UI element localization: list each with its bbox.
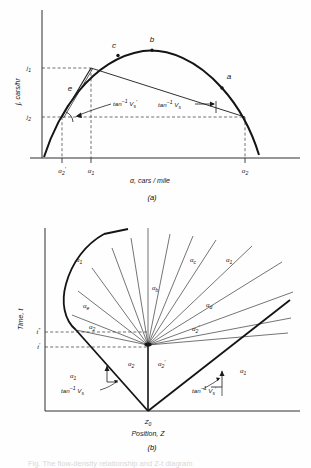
svg-text:α2′: α2′ (58, 166, 66, 175)
bottom-caption-text: Fig. The flow-density relationship and Z… (28, 459, 311, 468)
leader-vs-prime (77, 104, 111, 116)
ann2-sub: s (178, 104, 181, 110)
leader-arrowhead-vs-prime (76, 113, 83, 119)
fan-ray-14 (148, 333, 288, 345)
label-point-b: b (150, 35, 155, 44)
figure-svg: c b a e j1 j2 j, cars/hr α2′ α1 (0, 0, 311, 468)
panel-a-ytick-labels: j1 j2 (26, 64, 31, 122)
panel-b-origin-label: Z0 (144, 418, 152, 427)
slope-marker-left (100, 366, 118, 391)
svg-text:αc: αc (190, 256, 197, 265)
svg-text:α1: α1 (70, 372, 77, 381)
curve-point-b (150, 49, 153, 52)
panel-a-ylabel: j, cars/hr (14, 77, 22, 106)
rl3-sub: b (156, 287, 159, 293)
ytick-j1-sub: 1 (28, 67, 31, 73)
shock-line-right (148, 300, 290, 411)
ytick-t1-prime: ′ (39, 342, 41, 348)
xtick-a1-sub: 1 (91, 170, 94, 176)
curve-point-a (220, 86, 223, 89)
annotation-tan-vs-left: tan−1 Vs (61, 385, 84, 395)
flow-density-curve (44, 51, 259, 157)
bottom-caption-strip: Fig. The flow-density relationship and Z… (0, 455, 311, 468)
panel-a-caption: (a) (147, 193, 157, 202)
annotation-tan-vs-prime: tan−1 Vs′ (113, 98, 138, 108)
chord-vs (91, 68, 245, 117)
xtick-a2-sub: 2 (244, 170, 248, 176)
panel-a-xtick-labels: α2′ α1 α2 (58, 166, 248, 175)
chord-vs-prime (62, 68, 91, 117)
label-point-c: c (112, 41, 116, 50)
ann1-prime: ′ (136, 99, 138, 105)
fan-ray-5 (112, 248, 148, 345)
rl8-sub: 2 (131, 363, 135, 369)
fan-ray-2 (72, 315, 148, 345)
svg-text:α1: α1 (88, 167, 95, 176)
panel-a: c b a e j1 j2 j, cars/hr α2′ α1 (14, 10, 300, 202)
svg-text:j2: j2 (26, 113, 31, 122)
ytick-t2-prime: ″ (38, 327, 40, 333)
panel-b: α1 αe α2 αb αc α1 αd (17, 228, 300, 452)
rl1-sub: e (87, 305, 90, 311)
panel-b-caption: (b) (147, 443, 157, 452)
svg-text:α2: α2 (242, 167, 249, 176)
panel-b-ytick-t1: t′ (37, 342, 41, 350)
fan-ray-4 (92, 268, 148, 345)
fan-rays (72, 228, 293, 345)
fan-ray-10 (148, 246, 252, 345)
fan-envelope-curve (64, 234, 104, 330)
rl5-sub: 1 (230, 259, 233, 265)
svg-text:αb: αb (152, 284, 159, 293)
rl0-sub: 1 (80, 259, 83, 265)
fan-ray-3 (78, 291, 148, 345)
svg-text:α2: α2 (128, 360, 135, 369)
annl-sub: s (81, 390, 84, 396)
curve-point-c (116, 54, 119, 57)
svg-text:j1: j1 (26, 64, 31, 73)
panel-a-xticks (62, 158, 245, 163)
svg-text:αe: αe (83, 302, 90, 311)
svg-text:α2′: α2′ (192, 324, 200, 333)
z0-sub: 0 (149, 421, 152, 427)
rl6-sub: d (210, 304, 213, 310)
label-point-a: a (227, 72, 232, 81)
rl2-sub: 2 (92, 326, 96, 332)
panel-b-ylabel: Time, t (17, 308, 24, 330)
svg-text:α2: α2 (89, 323, 96, 332)
annotation-tan-vs: tan−1 Vs (158, 99, 181, 109)
panel-b-ytick-t2: t″ (36, 327, 40, 335)
svg-text:α2′: α2′ (158, 359, 166, 368)
shock-line-left (76, 330, 148, 411)
chord-vs-prime-shadow (64, 69, 93, 118)
rl10-sub: 1 (74, 375, 77, 381)
svg-text:α1: α1 (240, 367, 247, 376)
fan-envelope-top (104, 229, 128, 234)
rl7-prime: ′ (198, 324, 200, 330)
label-point-e: e (68, 84, 73, 93)
rl9-prime: ′ (164, 359, 166, 365)
xtick-a2p-prime: ′ (65, 166, 67, 172)
panel-a-xlabel: α, cars / mile (130, 177, 170, 184)
rl11-sub: 1 (244, 370, 247, 376)
figure-container: c b a e j1 j2 j, cars/hr α2′ α1 (0, 0, 311, 468)
svg-text:α1: α1 (226, 256, 233, 265)
fan-origin-node (144, 342, 151, 346)
ytick-j2-sub: 2 (27, 116, 31, 122)
rl4-sub: c (194, 259, 197, 265)
fan-ray-6 (131, 238, 148, 345)
panel-b-xlabel: Position, Z (131, 430, 165, 437)
svg-text:α1: α1 (76, 256, 83, 265)
